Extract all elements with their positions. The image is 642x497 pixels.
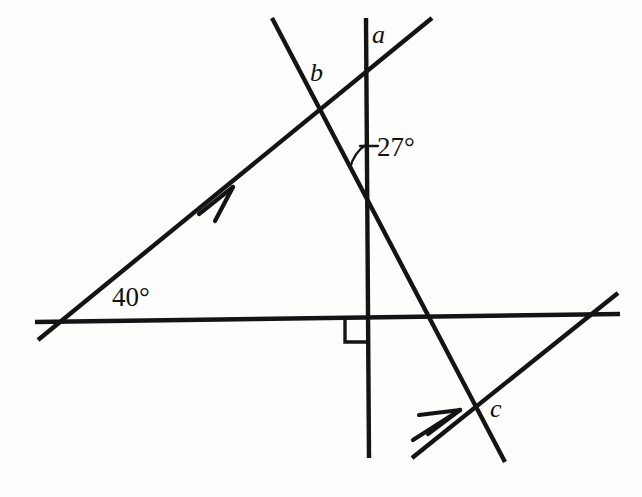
line-a-vertical xyxy=(366,18,369,458)
label-line-b: b xyxy=(310,60,323,86)
label-angle-27: 27° xyxy=(377,134,415,161)
geometry-figure: a b c 27° 40° xyxy=(0,0,642,497)
line-b-descending-transversal xyxy=(272,18,505,462)
label-line-a: a xyxy=(372,22,385,48)
label-line-c: c xyxy=(490,396,502,422)
horizontal-line xyxy=(35,314,620,322)
angle-arc-27 xyxy=(350,144,367,169)
right-angle-icon xyxy=(345,319,366,342)
ascending-transversal-upper-line xyxy=(38,18,432,340)
label-angle-40: 40° xyxy=(112,284,150,311)
